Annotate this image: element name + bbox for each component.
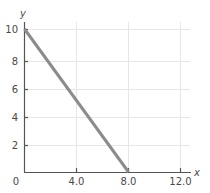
y-axis-label: y bbox=[19, 8, 27, 19]
x-tick-label-12: 12.0 bbox=[169, 176, 191, 187]
y-tick-labels: 10 8 6 4 2 bbox=[5, 24, 18, 151]
y-tick-label-2: 2 bbox=[12, 140, 18, 151]
x-tick-label-8: 8.0 bbox=[121, 176, 137, 187]
axes bbox=[24, 22, 191, 173]
y-tick-label-8: 8 bbox=[12, 56, 18, 67]
x-tick-label-4: 4.0 bbox=[69, 176, 85, 187]
origin-label: 0 bbox=[13, 176, 19, 187]
x-axis-label: x bbox=[193, 167, 200, 178]
x-tick-labels: 0 4.0 8.0 12.0 bbox=[13, 176, 192, 187]
y-tick-label-4: 4 bbox=[12, 112, 18, 123]
y-tick-label-6: 6 bbox=[12, 84, 18, 95]
y-tick-label-10: 10 bbox=[5, 24, 18, 35]
line-chart: 10 8 6 4 2 0 4.0 8.0 12.0 y x bbox=[0, 0, 210, 193]
grid bbox=[24, 22, 190, 172]
